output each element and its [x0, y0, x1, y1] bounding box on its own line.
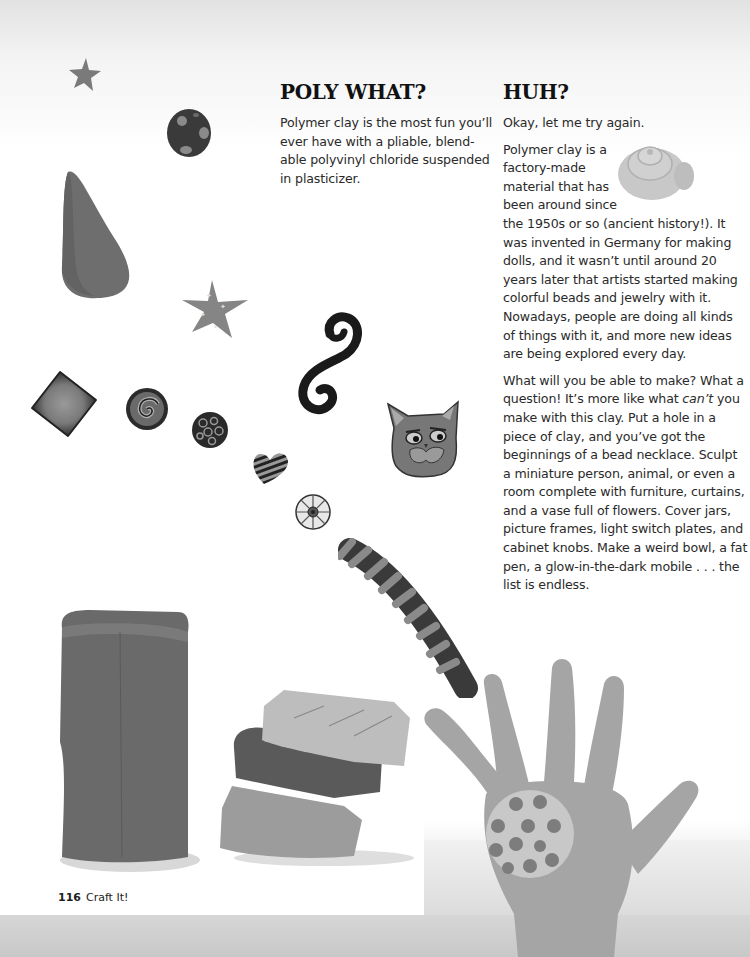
left-body-line: able polyvinyl chloride suspended [280, 151, 500, 170]
square-blended-bead-illustration [28, 368, 100, 440]
page-number: 116 [58, 891, 81, 904]
wrapped-line: Polymer clay is a [503, 141, 748, 160]
svg-text:✦: ✦ [206, 292, 212, 300]
cat-face-pin-illustration [384, 400, 464, 480]
small-star-illustration [64, 56, 104, 96]
starry-star-illustration: ✦ ✦ ✦ ✦ [180, 276, 252, 348]
striped-heart-illustration [250, 448, 292, 486]
spiral-cane-bead-illustration [124, 386, 170, 432]
hand-with-polka-dot-disc-illustration [418, 654, 718, 957]
wrapped-line: been around since [503, 196, 748, 215]
left-column-body: Polymer clay is the most fun you’ll ever… [280, 114, 500, 188]
right-column-heading: HUH? [503, 80, 569, 104]
what-to-make-paragraph: What will you be able to make? What a qu… [503, 372, 748, 595]
right-column-body: Okay, let me try again. Polymer clay is … [503, 114, 748, 603]
intro-paragraph: Okay, let me try again. [503, 114, 748, 133]
svg-text:✦: ✦ [213, 323, 218, 330]
tall-clay-block-illustration [50, 602, 200, 874]
flower-cane-slice-illustration [294, 493, 332, 531]
left-body-line: Polymer clay is the most fun you’ll [280, 114, 500, 133]
left-body-line: in plasticizer. [280, 170, 500, 189]
svg-text:✦: ✦ [220, 303, 226, 311]
history-paragraph-rest: the 1950s or so (ancient history!). It w… [503, 216, 738, 361]
teardrop-cone-illustration [58, 166, 140, 302]
millefiori-bead-illustration [190, 410, 230, 450]
paragraph-2-end: you make with this clay. Put a hole in a… [503, 391, 747, 592]
svg-text:✦: ✦ [200, 311, 206, 319]
wrapped-line: factory-made [503, 159, 748, 178]
left-column-heading: POLY WHAT? [280, 80, 426, 104]
emphasis-cant: can’t [682, 391, 713, 406]
page-footer: 116Craft It! [58, 891, 128, 904]
stacked-clay-blocks-illustration [214, 688, 414, 868]
left-body-line: ever have with a pliable, blend- [280, 133, 500, 152]
spiral-s-swirl-illustration [290, 306, 380, 421]
polka-dot-bead-illustration [164, 107, 216, 159]
wrapped-line: material that has [503, 178, 748, 197]
section-title: Craft It! [86, 891, 128, 904]
history-paragraph: Polymer clay is a factory-made material … [503, 141, 748, 364]
